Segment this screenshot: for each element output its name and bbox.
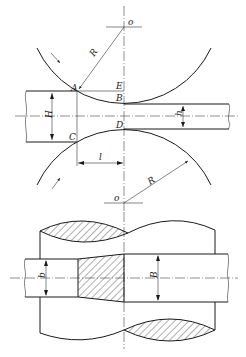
top-rotation-arrow xyxy=(51,53,60,63)
side-view: o R o R H h xyxy=(15,6,238,212)
label-point-b: B xyxy=(115,93,123,103)
label-exit-thickness: h xyxy=(174,110,184,116)
label-entry-width: b xyxy=(37,272,47,278)
label-radius-top: R xyxy=(87,47,100,59)
rolling-diagram: o R o R H h xyxy=(0,0,246,357)
bottom-rotation-arrow xyxy=(52,178,60,189)
label-point-d: D xyxy=(115,120,123,130)
plan-view: b B xyxy=(10,212,238,349)
label-center-bottom: o xyxy=(114,193,120,203)
top-roll-right-edge xyxy=(128,221,215,233)
label-contact-length: l xyxy=(99,152,102,162)
label-center-top: o xyxy=(128,17,134,27)
label-point-c: C xyxy=(69,132,76,142)
top-bulge-hatched xyxy=(40,221,128,242)
top-radius-line xyxy=(79,27,124,89)
label-entry-thickness: H xyxy=(44,110,54,119)
plan-deformation-zone-hatched xyxy=(78,254,124,302)
entry-strip-break xyxy=(25,91,26,142)
bottom-bulge-hatched xyxy=(124,319,215,341)
label-point-e: E xyxy=(115,81,123,91)
bottom-roll-left-edge xyxy=(40,330,124,340)
label-radius-bottom: R xyxy=(145,174,157,187)
exit-strip-break xyxy=(228,104,229,129)
label-point-a: A xyxy=(70,83,78,93)
label-exit-width: B xyxy=(149,271,159,279)
